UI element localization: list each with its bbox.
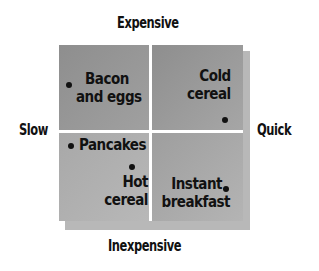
axis-label-quick: Quick [257,121,291,139]
item-label-line2: cereal [104,191,148,209]
quadrant-grid: Bacon and eggs Cold cereal Pancakes Hot … [59,45,243,221]
item-instant-breakfast: Instant breakfast [161,175,230,211]
item-cold-cereal: Cold cereal [187,67,231,103]
point-pancakes [68,143,74,149]
item-pancakes: Pancakes [79,136,146,154]
item-hot-cereal: Hot cereal [104,173,148,209]
item-label-line2: and eggs [76,88,142,106]
item-label-line1: Pancakes [79,136,146,154]
point-cold-cereal [222,117,228,123]
item-bacon-and-eggs: Bacon and eggs [76,70,142,106]
item-label-line1: Bacon [76,70,142,88]
item-label-line1: Instant [161,175,230,193]
point-bacon-and-eggs [66,82,72,88]
point-instant-breakfast [223,186,229,192]
item-label-line1: Cold [187,67,231,85]
axis-label-inexpensive: Inexpensive [108,237,181,255]
item-label-line2: breakfast [161,193,230,211]
axis-label-slow: Slow [19,121,48,139]
point-hot-cereal [129,164,135,170]
item-label-line2: cereal [187,85,231,103]
axis-label-expensive: Expensive [117,14,179,32]
item-label-line1: Hot [104,173,148,191]
